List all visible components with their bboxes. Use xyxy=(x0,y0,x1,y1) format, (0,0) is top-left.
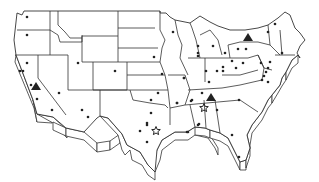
location-dot-marker xyxy=(237,48,240,51)
location-dot-marker xyxy=(205,70,208,73)
location-dot-marker xyxy=(267,81,270,84)
location-dot-marker xyxy=(208,81,211,84)
location-dot-marker xyxy=(26,62,29,65)
location-dot-marker xyxy=(51,109,54,112)
location-dot-marker xyxy=(77,62,80,65)
location-dot-marker xyxy=(222,70,225,73)
location-dot-marker xyxy=(139,130,142,133)
location-dot-marker xyxy=(242,62,245,65)
location-dot-marker xyxy=(197,52,200,55)
location-dot-marker xyxy=(261,79,264,82)
location-dot-marker xyxy=(245,48,248,51)
location-dot-marker xyxy=(146,141,149,144)
location-dot-marker xyxy=(197,45,200,48)
location-dot-marker xyxy=(269,61,272,64)
location-dot-marker xyxy=(81,109,84,112)
location-dot-marker xyxy=(216,109,219,112)
location-dot-marker xyxy=(183,77,186,80)
location-dot-marker xyxy=(36,98,39,101)
location-dot-marker xyxy=(238,99,241,102)
location-dot-marker xyxy=(150,112,153,115)
us-map xyxy=(0,0,319,182)
location-dot-marker xyxy=(157,92,160,95)
location-dot-marker xyxy=(150,99,153,102)
location-dot-marker xyxy=(224,52,227,55)
location-dot-marker xyxy=(19,70,22,73)
location-dot-marker xyxy=(231,60,234,63)
location-dot-marker xyxy=(201,92,204,95)
location-dot-marker xyxy=(263,75,266,78)
location-dot-marker xyxy=(267,67,270,70)
location-dot-marker xyxy=(231,134,234,137)
location-dot-marker xyxy=(22,70,25,73)
location-dot-marker xyxy=(58,92,61,95)
location-dot-marker xyxy=(197,55,200,58)
location-dot-marker xyxy=(235,67,238,70)
location-dot-marker xyxy=(260,62,263,65)
location-dot-marker xyxy=(172,31,175,34)
location-dot-marker xyxy=(238,156,241,159)
location-dot-marker xyxy=(30,84,33,87)
location-dot-marker xyxy=(198,123,201,126)
location-dot-marker xyxy=(281,52,284,55)
location-dot-marker xyxy=(186,131,189,134)
location-dot-marker xyxy=(265,71,268,74)
location-dot-marker xyxy=(222,66,225,69)
location-dot-marker xyxy=(267,31,270,34)
location-dot-marker xyxy=(114,70,117,73)
location-dot-marker xyxy=(153,56,156,59)
location-dot-marker xyxy=(191,99,194,102)
location-dot-marker xyxy=(161,73,164,76)
location-dot-marker xyxy=(87,116,90,119)
location-dot-marker xyxy=(216,70,219,73)
location-dot-marker xyxy=(146,122,149,125)
location-dot-marker xyxy=(274,23,277,26)
location-dot-marker xyxy=(26,16,29,19)
location-dot-marker xyxy=(176,102,179,105)
location-dot-marker xyxy=(212,45,215,48)
location-dot-marker xyxy=(26,34,29,37)
